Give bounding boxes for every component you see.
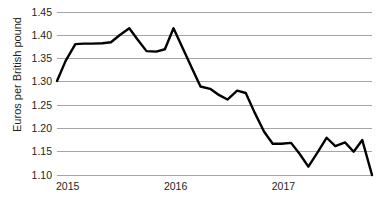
data-line [57,28,372,175]
line-chart-figure: Euros per British pound 1.101.151.201.25… [0,0,381,205]
data-series-group [57,28,372,175]
gridlines [57,12,372,175]
plot-area [0,0,381,205]
